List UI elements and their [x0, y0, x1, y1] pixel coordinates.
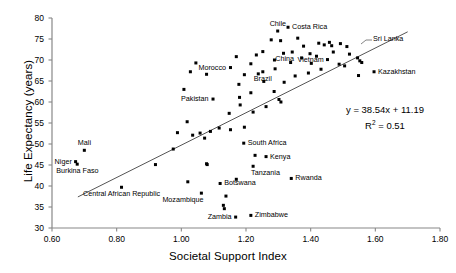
data-point	[228, 112, 231, 115]
y-axis-tick-label: 35	[24, 202, 44, 212]
data-point	[243, 73, 246, 76]
x-axis-tick-label: 1.80	[420, 234, 456, 244]
data-point	[154, 163, 157, 166]
data-point	[249, 214, 252, 217]
data-point-label: Pakistan	[181, 95, 209, 103]
data-point-label: Brazil	[254, 75, 272, 83]
data-point	[223, 207, 226, 210]
data-point	[172, 148, 175, 151]
data-point-label: Sri Lanka	[373, 35, 403, 43]
data-point	[205, 73, 208, 76]
x-axis-title: Societal Support Index	[0, 250, 456, 262]
data-point	[343, 64, 346, 67]
data-point	[243, 126, 246, 129]
r-squared-text: R2 = 0.51	[326, 116, 444, 132]
r-squared-prefix: R	[365, 120, 372, 131]
data-point	[273, 90, 276, 93]
data-point	[270, 38, 273, 41]
data-point	[238, 96, 241, 99]
y-axis-tick-label: 40	[24, 181, 44, 191]
data-point	[348, 53, 351, 56]
data-point-label: Kazakhstan	[378, 68, 416, 76]
y-axis-tick-label: 45	[24, 160, 44, 170]
x-axis-tick-label: 1.40	[291, 234, 331, 244]
data-point	[290, 177, 293, 180]
data-point-label: Tanzania	[251, 169, 280, 177]
data-point	[209, 130, 212, 133]
data-point	[339, 42, 342, 45]
data-point	[83, 149, 86, 152]
data-point	[302, 45, 305, 48]
data-point-label: Central African Republic	[83, 190, 160, 198]
data-point	[265, 155, 268, 158]
data-point-label: Zambia	[208, 213, 232, 221]
y-axis-tick-label: 50	[24, 139, 44, 149]
data-point-label: Costa Rica	[292, 23, 327, 31]
data-point	[222, 204, 225, 207]
data-point	[212, 98, 215, 101]
data-point	[255, 53, 258, 56]
data-point	[189, 70, 192, 73]
x-axis-tick-label: 0.60	[32, 234, 72, 244]
scatter-chart: Life Expectancy (years) Societal Support…	[0, 0, 456, 273]
data-point	[357, 74, 360, 77]
data-point	[218, 127, 221, 130]
data-point	[296, 37, 299, 40]
r-squared-value: = 0.51	[376, 120, 405, 131]
data-point	[254, 154, 257, 157]
y-axis-tick-label: 60	[24, 97, 44, 107]
data-point	[182, 88, 185, 91]
data-point-label: Niger	[55, 158, 72, 166]
data-point	[356, 56, 359, 59]
data-point	[194, 61, 197, 64]
data-point	[323, 43, 326, 46]
data-point-label: Vietnam	[297, 56, 323, 64]
data-point	[186, 120, 189, 123]
y-axis-tick-label: 75	[24, 34, 44, 44]
y-axis-tick-label: 80	[24, 13, 44, 23]
data-point-label: Mozambique	[162, 196, 203, 204]
data-point-label: China	[275, 55, 294, 63]
data-point	[186, 180, 189, 183]
data-point	[176, 131, 179, 134]
trendline-equation-annotation: y = 38.54x + 11.19 R2 = 0.51	[326, 103, 444, 132]
data-point	[237, 83, 240, 86]
data-point-label: Morocco	[198, 64, 226, 72]
data-point	[265, 105, 268, 108]
regression-equation-text: y = 38.54x + 11.19	[326, 103, 444, 116]
x-axis-tick-label: 1.20	[226, 234, 266, 244]
data-point	[261, 50, 264, 53]
data-point	[326, 58, 329, 61]
data-point	[332, 51, 335, 54]
y-axis-tick-label: 55	[24, 118, 44, 128]
data-point	[287, 26, 290, 29]
data-point	[279, 39, 282, 42]
x-axis-tick-label: 1.00	[161, 234, 201, 244]
data-point	[206, 163, 209, 166]
y-axis-tick-label: 70	[24, 55, 44, 65]
data-point	[307, 72, 310, 75]
data-point	[229, 66, 232, 69]
data-point	[219, 182, 222, 185]
data-point-label: Rwanda	[295, 174, 321, 182]
data-point-label: Burkina Faso	[56, 167, 98, 175]
data-point	[317, 42, 320, 45]
x-axis-tick-label: 1.60	[355, 234, 395, 244]
data-point	[235, 55, 238, 58]
data-point	[242, 142, 245, 145]
y-axis-tick-label: 65	[24, 76, 44, 86]
data-point	[373, 70, 376, 73]
data-point	[276, 30, 279, 33]
data-point	[224, 195, 227, 198]
data-point	[338, 63, 341, 66]
data-point	[249, 62, 252, 65]
data-point-label: Mali	[78, 139, 91, 147]
data-point-label: Chile	[270, 20, 286, 28]
data-point-label: Zimbabwe	[255, 211, 288, 219]
data-point	[328, 41, 331, 44]
data-point	[229, 128, 232, 131]
data-point	[249, 91, 252, 94]
y-axis-tick-label: 30	[24, 223, 44, 233]
data-point	[252, 111, 255, 114]
data-point	[261, 70, 264, 73]
